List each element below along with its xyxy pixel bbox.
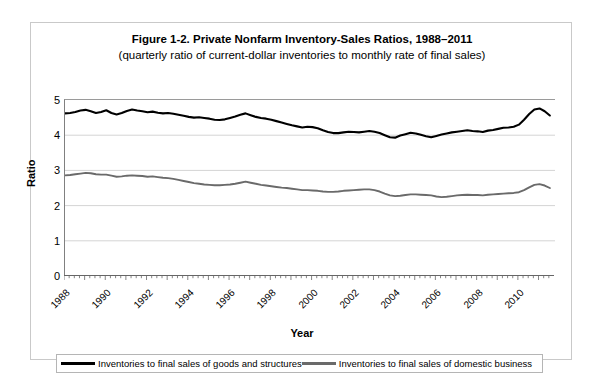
legend-label-goods-structures: Inventories to final sales of goods and … (98, 358, 302, 369)
x-tick-label: 2006 (407, 287, 443, 323)
series-line-goods-structures (65, 108, 550, 137)
y-tick-label: 4 (54, 129, 60, 141)
legend-item-goods-structures: Inventories to final sales of goods and … (61, 358, 302, 369)
figure-frame: Figure 1-2. Private Nonfarm Inventory-Sa… (30, 22, 572, 360)
x-tick-label: 2004 (366, 287, 402, 323)
series-lines (65, 108, 550, 197)
y-axis-title: Ratio (25, 160, 37, 188)
y-tick-label: 1 (54, 235, 60, 247)
x-tick-label: 1996 (201, 287, 237, 323)
legend-item-domestic-business: Inventories to final sales of domestic b… (302, 358, 532, 369)
chart-title: Figure 1-2. Private Nonfarm Inventory-Sa… (31, 31, 573, 47)
series-line-domestic-business (65, 173, 550, 197)
x-tick-label: 2000 (283, 287, 319, 323)
y-tick-label: 2 (54, 200, 60, 212)
x-tick-label: 1992 (118, 287, 154, 323)
title-block: Figure 1-2. Private Nonfarm Inventory-Sa… (31, 31, 573, 64)
x-axis-tick-marks (64, 275, 554, 281)
y-tick-label: 3 (54, 164, 60, 176)
legend-label-domestic-business: Inventories to final sales of domestic b… (339, 358, 532, 369)
legend-swatch-gray-line-icon (302, 362, 336, 365)
x-tick-label: 2008 (448, 287, 484, 323)
y-tick-label: 5 (54, 94, 60, 106)
legend-swatch-black-line-icon (61, 362, 95, 365)
x-tick-label: 1990 (77, 287, 113, 323)
gridlines (65, 135, 555, 241)
y-tick-label: 0 (54, 270, 60, 282)
chart-subtitle: (quarterly ratio of current-dollar inven… (31, 47, 573, 64)
x-axis-title: Year (31, 327, 573, 339)
x-tick-label: 1994 (159, 287, 195, 323)
x-tick-label: 1988 (36, 287, 72, 323)
x-tick-label: 2002 (325, 287, 361, 323)
plot-area: 012345 (64, 99, 555, 276)
x-tick-label: 1998 (242, 287, 278, 323)
chart-plot-svg (65, 100, 555, 276)
x-tick-label: 2010 (490, 287, 526, 323)
chart-legend: Inventories to final sales of goods and … (56, 354, 543, 373)
